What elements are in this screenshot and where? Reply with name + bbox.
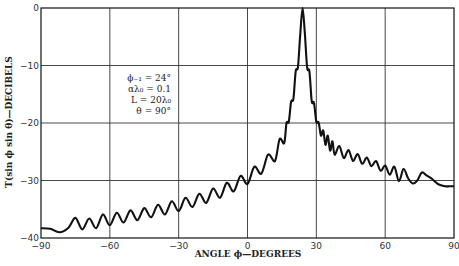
grid	[41, 8, 454, 238]
chart: −90−60−300306090 0−10−20−30−40 ANGLE ϕ—D…	[0, 0, 459, 266]
x-axis-label: ANGLE ϕ—DEGREES	[194, 249, 302, 259]
x-tick-label: 30	[311, 241, 323, 251]
annotation-line: θ = 90°	[136, 106, 171, 116]
y-tick-label: 0	[33, 3, 39, 13]
y-tick-label: −40	[20, 233, 39, 243]
annotation-line: L = 20λ₀	[131, 95, 171, 105]
x-tick-label: 60	[379, 241, 391, 251]
y-tick-label: −10	[20, 61, 39, 71]
annotation-line: αλ₀ = 0.1	[128, 84, 171, 94]
x-tick-label: 90	[448, 241, 459, 251]
y-tick-labels: 0−10−20−30−40	[20, 3, 39, 243]
y-tick-label: −20	[20, 118, 39, 128]
annotation-line: ϕ₋₁ = 24°	[127, 73, 171, 83]
y-tick-label: −30	[20, 176, 39, 186]
x-tick-label: −30	[169, 241, 188, 251]
y-axis-label: T(sin ϕ sin θ)—DECIBELS	[4, 56, 14, 187]
x-tick-label: −60	[100, 241, 119, 251]
